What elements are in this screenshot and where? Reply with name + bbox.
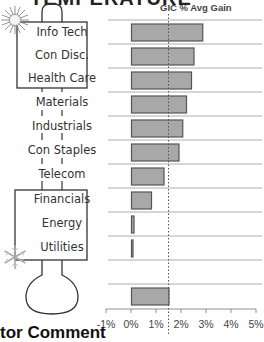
footer-text-partial: tor Comment [0,323,106,342]
bar-financials [132,192,152,209]
x-tick-label: 5% [248,318,263,330]
bar-average [132,288,170,305]
bar-info-tech [132,24,203,41]
bar-telecom [132,168,165,185]
bar-health-care [132,72,192,89]
x-tick-label: 3% [198,318,213,330]
x-tick-label: 2% [173,318,188,330]
bar-energy [132,216,135,233]
x-tick-label: 4% [223,318,238,330]
bar-utilities [132,240,134,257]
bar-materials [132,96,187,113]
x-tick-label: 1% [148,318,163,330]
bar-con-staples [132,144,180,161]
x-tick-label: 0% [123,318,138,330]
bar-con-disc- [132,48,195,65]
bar-industrials [132,120,183,137]
